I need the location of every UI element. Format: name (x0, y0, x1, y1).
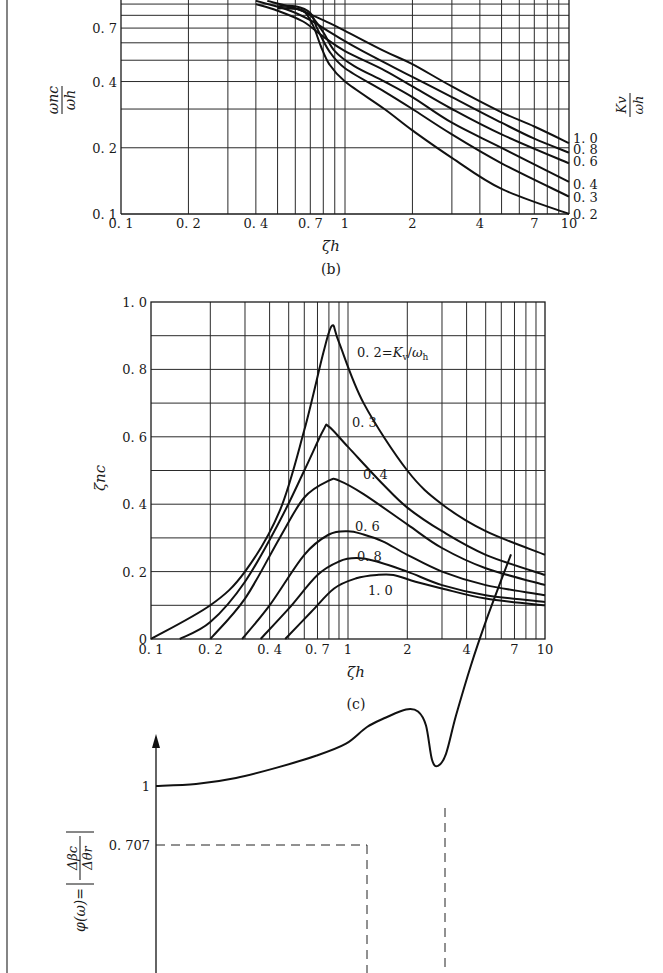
x-tick-label: 1 (341, 216, 349, 231)
chart-b-omega-ratio: 0. 10. 20. 40. 71247100. 10. 20. 40. 71.… (45, 0, 646, 277)
curve-kv-0.8 (261, 558, 545, 639)
series-label: 0. 4 (363, 467, 388, 482)
series-label: 0. 3 (573, 190, 598, 205)
series-label: 0. 6 (355, 519, 380, 534)
svg-text:ωnc: ωnc (45, 86, 61, 114)
x-tick-label: 0. 2 (176, 216, 201, 231)
series-label: 0. 6 (573, 154, 598, 169)
y-tick-label: 0. 2 (92, 141, 117, 156)
series-label: 0. 2=Kv/ωh (357, 345, 429, 362)
x-tick-label: 7 (510, 642, 518, 657)
x-tick-label: 0. 4 (243, 216, 268, 231)
y-tick-0707: 0. 707 (109, 838, 150, 853)
svg-text:ωh: ωh (62, 90, 78, 110)
x-tick-label: 2 (403, 642, 411, 657)
series-label: 0. 2 (573, 207, 598, 222)
x-tick-label: 4 (476, 216, 484, 231)
x-tick-label: 0. 7 (298, 216, 323, 231)
y-tick-label: 0. 2 (122, 565, 147, 580)
axis-arrow-icon (152, 734, 160, 748)
series-label: 1. 0 (368, 583, 393, 598)
y-tick-label: 0 (139, 632, 147, 647)
x-tick-label: 0. 7 (305, 642, 330, 657)
svg-text:Δβc: Δβc (65, 845, 80, 871)
x-tick-label: 4 (462, 642, 470, 657)
y-tick-label: 0. 7 (92, 21, 117, 36)
x-axis-label: ζh (322, 237, 340, 255)
figure-canvas: 0. 10. 20. 40. 71247100. 10. 20. 40. 71.… (0, 0, 663, 973)
y-tick-label: 0. 4 (122, 497, 147, 512)
x-tick-label: 10 (537, 642, 554, 657)
svg-text:Δθr: Δθr (80, 846, 95, 871)
y-axis-label: φ(ω)=ΔβcΔθr (65, 832, 95, 932)
curve-kv-1.0 (285, 574, 545, 639)
caption-c: (c) (347, 696, 366, 712)
y-tick-1: 1 (142, 779, 150, 794)
chart-c-damping-ratio: 0. 10. 20. 40. 712471000. 20. 40. 60. 81… (91, 295, 553, 712)
y-axis-label: ζnc (91, 464, 109, 491)
x-tick-label: 1 (344, 642, 352, 657)
y-tick-label: 0. 4 (92, 75, 117, 90)
series-label: 0. 3 (352, 415, 377, 430)
figure-page: 0. 10. 20. 40. 71247100. 10. 20. 40. 71.… (0, 0, 663, 973)
chart-d-frequency-response: 10. 707φ(ω)=ΔβcΔθr (65, 554, 511, 973)
right-axis-label: Kvωh (614, 93, 646, 117)
x-tick-label: 0. 4 (257, 642, 282, 657)
x-tick-label: 7 (530, 216, 538, 231)
svg-text:Kv: Kv (614, 96, 629, 115)
y-tick-label: 0. 1 (92, 207, 117, 222)
caption-b: (b) (321, 261, 341, 277)
x-tick-label: 2 (408, 216, 416, 231)
series-label: 0. 8 (357, 549, 382, 564)
y-tick-label: 1. 0 (122, 295, 147, 310)
y-tick-label: 0. 8 (122, 362, 147, 377)
x-axis-label: ζh (347, 663, 365, 681)
x-tick-label: 0. 2 (198, 642, 223, 657)
svg-text:ωh: ωh (631, 96, 646, 115)
curve-kv-0.2 (287, 8, 569, 214)
svg-text:φ(ω)=: φ(ω)= (72, 888, 88, 932)
y-tick-label: 0. 6 (122, 430, 147, 445)
y-axis-label: ωncωh (45, 86, 78, 114)
